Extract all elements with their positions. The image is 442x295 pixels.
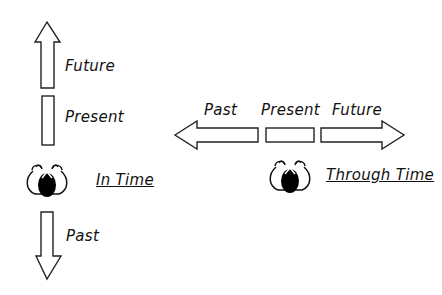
label-past-horizontal: Past xyxy=(204,101,237,119)
label-present-horizontal: Present xyxy=(261,101,320,119)
diagram-canvas xyxy=(0,0,442,295)
future-arrow-up xyxy=(35,22,60,88)
person-figure-in-time xyxy=(27,165,67,197)
label-future-horizontal: Future xyxy=(332,101,382,119)
person-figure-through-time xyxy=(270,161,310,193)
title-in-time: In Time xyxy=(96,171,154,189)
past-arrow-down xyxy=(36,212,61,279)
future-arrow-right xyxy=(321,121,404,149)
present-box-vertical xyxy=(42,96,54,145)
label-past-vertical: Past xyxy=(66,227,99,245)
present-box-horizontal xyxy=(266,128,314,142)
title-through-time: Through Time xyxy=(326,166,434,184)
past-arrow-left xyxy=(175,121,258,149)
label-present-vertical: Present xyxy=(65,108,124,126)
label-future-vertical: Future xyxy=(65,57,115,75)
